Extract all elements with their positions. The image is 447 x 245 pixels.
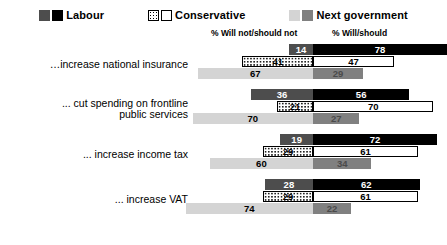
column-header-left: % Will not/should not <box>211 28 297 38</box>
legend-swatch-next-government-right <box>302 10 313 21</box>
category-label-3: ... increase income tax <box>6 149 188 160</box>
bar-next-government-left-2: 70 <box>193 113 313 124</box>
bar-value-labour-left-1: 14 <box>296 45 307 55</box>
bar-conservative-right-2: 70 <box>313 101 433 112</box>
bar-value-conservative-right-4: 61 <box>360 192 371 202</box>
category-label-4: ... increase VAT <box>6 194 188 205</box>
bar-value-conservative-left-2: 21 <box>290 102 301 112</box>
bar-value-next-government-left-4: 74 <box>244 204 255 214</box>
bar-value-labour-left-4: 28 <box>284 180 295 190</box>
legend-swatch-labour-right <box>52 10 63 21</box>
bar-labour-left-4: 28 <box>265 179 313 190</box>
bar-conservative-left-1: 41 <box>242 56 313 67</box>
bar-conservative-right-1: 47 <box>313 56 394 67</box>
category-label-2: ... cut spending on frontline public ser… <box>6 98 188 120</box>
chart-legend: Labour Conservative Next government <box>0 6 447 24</box>
legend-swatch-group-next-government <box>289 10 313 21</box>
bar-value-labour-right-3: 72 <box>370 135 381 145</box>
bar-next-government-left-1: 67 <box>198 68 313 79</box>
legend-label-conservative: Conservative <box>175 10 245 21</box>
bar-conservative-left-4: 29 <box>263 191 313 202</box>
legend-item-conservative: Conservative <box>148 10 245 21</box>
bar-labour-right-3: 72 <box>313 134 437 145</box>
bar-value-conservative-left-4: 29 <box>283 192 294 202</box>
bar-labour-left-3: 19 <box>280 134 313 145</box>
bar-value-next-government-right-4: 22 <box>327 204 338 214</box>
bar-value-labour-left-3: 19 <box>291 135 302 145</box>
legend-swatch-conservative-right <box>161 10 172 21</box>
chart-plot-area: …increase national insurance147841476729… <box>0 42 447 242</box>
bar-labour-right-4: 62 <box>313 179 420 190</box>
bar-conservative-right-3: 61 <box>313 146 418 157</box>
bar-value-next-government-right-3: 34 <box>337 159 348 169</box>
bar-value-next-government-left-2: 70 <box>248 114 259 124</box>
bar-next-government-right-3: 34 <box>313 158 371 169</box>
legend-swatch-conservative-left <box>148 10 159 21</box>
bar-value-next-government-left-1: 67 <box>250 69 261 79</box>
bar-labour-left-1: 14 <box>289 44 313 55</box>
legend-item-next-government: Next government <box>289 10 407 21</box>
column-headers: % Will not/should not % Will/should <box>0 28 447 42</box>
bar-value-conservative-right-3: 61 <box>360 147 371 157</box>
column-header-right: % Will/should <box>332 28 387 38</box>
bar-conservative-right-4: 61 <box>313 191 418 202</box>
bar-next-government-left-4: 74 <box>186 203 313 214</box>
bar-value-conservative-left-1: 41 <box>272 57 283 67</box>
legend-label-labour: Labour <box>66 10 104 21</box>
bar-value-conservative-left-3: 29 <box>283 147 294 157</box>
bar-next-government-left-3: 60 <box>210 158 313 169</box>
bar-labour-right-2: 56 <box>313 89 409 100</box>
legend-swatch-labour-left <box>39 10 50 21</box>
bar-next-government-right-2: 27 <box>313 113 359 124</box>
legend-item-labour: Labour <box>39 10 104 21</box>
legend-swatch-group-labour <box>39 10 63 21</box>
bar-value-labour-right-1: 78 <box>375 45 386 55</box>
bar-value-next-government-left-3: 60 <box>256 159 267 169</box>
bar-conservative-left-2: 21 <box>277 101 313 112</box>
legend-swatch-group-conservative <box>148 10 172 21</box>
bar-value-labour-right-2: 56 <box>356 90 367 100</box>
bar-value-conservative-right-1: 47 <box>348 57 359 67</box>
bar-value-labour-right-4: 62 <box>361 180 372 190</box>
bar-next-government-right-4: 22 <box>313 203 351 214</box>
bar-labour-left-2: 36 <box>251 89 313 100</box>
category-label-1: …increase national insurance <box>6 59 188 70</box>
bar-value-conservative-right-2: 70 <box>368 102 379 112</box>
bar-labour-right-1: 78 <box>313 44 447 55</box>
bar-next-government-right-1: 29 <box>313 68 363 79</box>
bar-conservative-left-3: 29 <box>263 146 313 157</box>
bar-value-next-government-right-1: 29 <box>333 69 344 79</box>
bar-value-next-government-right-2: 27 <box>331 114 342 124</box>
bar-value-labour-left-2: 36 <box>277 90 288 100</box>
legend-swatch-next-government-left <box>289 10 300 21</box>
legend-label-next-government: Next government <box>316 10 407 21</box>
